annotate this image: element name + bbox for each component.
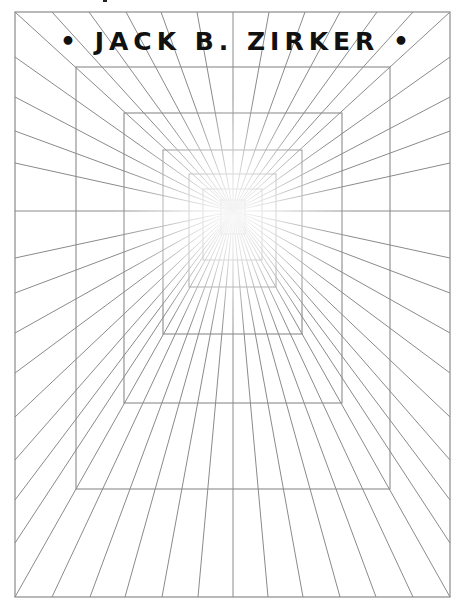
author-name: • JACK B. ZIRKER •: [0, 27, 466, 56]
center-fade: [0, 0, 466, 610]
cropped-text-fragment: [103, 0, 107, 2]
perspective-tunnel-artwork: [0, 0, 466, 610]
